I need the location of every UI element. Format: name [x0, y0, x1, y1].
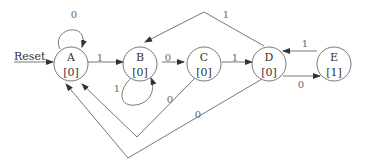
label-c-a: 0	[167, 94, 173, 105]
label-b-b: 1	[114, 83, 120, 94]
state-a-name: A	[66, 51, 76, 64]
transition-d-b	[145, 12, 264, 46]
state-c-output: [0]	[196, 66, 212, 79]
state-diagram: A [0] B [0] C [0] D [0] E [1] Reset 0 1 …	[0, 0, 367, 167]
state-e-output: [1]	[326, 66, 342, 79]
label-e-d: 1	[302, 38, 308, 49]
transition-a-a	[58, 30, 83, 49]
transition-d-a	[66, 79, 262, 158]
state-d-output: [0]	[261, 66, 277, 79]
state-d-name: D	[265, 51, 274, 64]
label-d-b: 1	[223, 9, 229, 20]
label-b-c: 0	[165, 52, 171, 63]
label-d-a: 0	[195, 109, 201, 120]
state-a-output: [0]	[63, 66, 79, 79]
state-e-name: E	[330, 51, 338, 64]
label-a-a: 0	[71, 9, 77, 20]
label-c-d: 1	[232, 52, 238, 63]
state-c-name: C	[200, 51, 208, 64]
label-d-e: 0	[298, 79, 304, 90]
state-b-output: [0]	[132, 66, 148, 79]
label-a-b: 1	[97, 52, 103, 63]
reset-label: Reset	[14, 50, 46, 63]
state-b-name: B	[136, 51, 144, 64]
